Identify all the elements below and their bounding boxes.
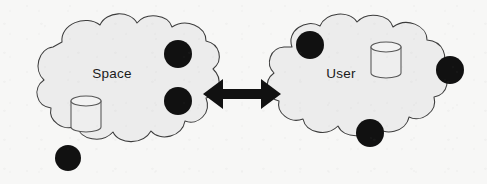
cloud-diagram-svg: Space User (0, 0, 487, 184)
cloud-space[interactable]: Space (37, 14, 219, 171)
cloud-user[interactable]: User (267, 14, 464, 147)
user-node-dot (436, 56, 464, 84)
user-cloud-outline (267, 14, 447, 136)
user-node-dot (296, 31, 324, 59)
space-database-icon (71, 96, 101, 132)
diagram-canvas: Space User (0, 0, 487, 184)
user-database-icon (371, 42, 401, 78)
space-node-dot (55, 145, 81, 171)
space-cloud-label: Space (92, 66, 131, 81)
space-node-dot (164, 40, 192, 68)
user-cloud-label: User (326, 66, 356, 81)
space-node-dot (164, 87, 192, 115)
user-node-dot (356, 119, 384, 147)
